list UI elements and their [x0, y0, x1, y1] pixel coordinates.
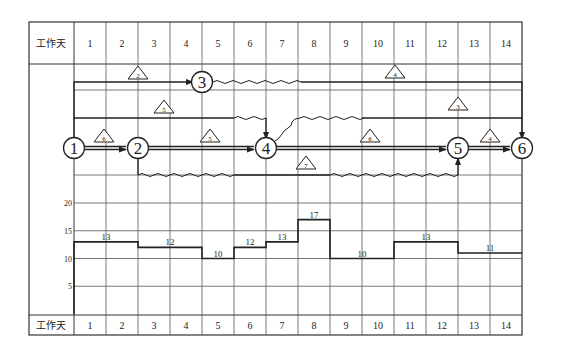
header-day: 5	[216, 38, 221, 49]
histogram-value-label: 10	[358, 249, 368, 259]
svg-text:6: 6	[518, 139, 527, 158]
resource-triangle: 4	[385, 65, 405, 79]
header-day: 3	[152, 38, 157, 49]
y-tick-label: 20	[64, 199, 72, 208]
histogram-value-label: 10	[214, 249, 224, 259]
header-day: 4	[184, 38, 189, 49]
node-2: 2	[128, 138, 149, 159]
node-5: 5	[448, 138, 469, 159]
resource-triangle: 5	[200, 129, 220, 143]
svg-text:5: 5	[208, 135, 212, 143]
resource-triangle: 3	[448, 97, 468, 111]
header-day: 7	[280, 38, 285, 49]
histogram-value-label: 13	[278, 232, 288, 242]
header-day: 14	[501, 38, 511, 49]
header-day: 10	[373, 38, 383, 49]
footer-day: 7	[280, 320, 285, 331]
y-tick-label: 15	[64, 227, 72, 236]
y-tick-label: 10	[64, 255, 72, 264]
histogram-value-label: 13	[102, 232, 112, 242]
footer-day: 12	[437, 320, 447, 331]
footer-day: 8	[312, 320, 317, 331]
resource-triangle: 5	[154, 100, 174, 114]
svg-text:4: 4	[393, 71, 397, 79]
activity-1-4-float	[234, 117, 266, 120]
footer-day: 4	[184, 320, 189, 331]
time-scaled-network-diagram: 1234567891011121314 工作天 1234567891011121…	[0, 0, 562, 355]
histogram-value-label: 12	[246, 237, 255, 247]
resource-triangle: 4	[480, 129, 500, 143]
footer-day: 14	[501, 320, 511, 331]
svg-text:2: 2	[136, 72, 140, 80]
node-1: 1	[64, 138, 85, 159]
svg-text:4: 4	[488, 135, 492, 143]
header-day: 9	[344, 38, 349, 49]
svg-text:6: 6	[102, 135, 106, 143]
svg-text:3: 3	[456, 103, 460, 111]
node-4: 4	[256, 138, 277, 159]
svg-text:6: 6	[368, 135, 372, 143]
activity-3-6-float	[213, 81, 301, 84]
svg-text:7: 7	[304, 162, 308, 170]
footer-day: 1	[88, 320, 93, 331]
histogram-value-label: 11	[486, 243, 495, 253]
footer-day: 2	[120, 320, 125, 331]
footer-day: 9	[344, 320, 349, 331]
svg-text:1: 1	[70, 139, 79, 158]
histogram-value-label: 13	[422, 232, 432, 242]
footer-day: 10	[373, 320, 383, 331]
header-day: 13	[469, 38, 479, 49]
resource-triangle: 7	[296, 156, 316, 170]
svg-text:5: 5	[162, 106, 166, 114]
footer-day: 11	[405, 320, 415, 331]
footer-day: 5	[216, 320, 221, 331]
header-day: 1	[88, 38, 93, 49]
footer-day: 3	[152, 320, 157, 331]
header-day: 11	[405, 38, 415, 49]
header-day: 6	[248, 38, 253, 49]
header-day: 2	[120, 38, 125, 49]
histogram-value-label: 12	[166, 237, 175, 247]
activity-4-6-float	[274, 117, 364, 143]
footer-day: 13	[469, 320, 479, 331]
resource-triangle: 2	[128, 66, 148, 80]
y-tick-label: 5	[68, 282, 72, 291]
header-day: 8	[312, 38, 317, 49]
grid	[29, 22, 522, 335]
footer-row: 1234567891011121314	[88, 320, 512, 331]
svg-text:3: 3	[198, 73, 207, 92]
svg-text:2: 2	[134, 139, 143, 158]
svg-text:5: 5	[454, 139, 463, 158]
node-6: 6	[512, 138, 533, 159]
histogram-y-axis: 5101520	[64, 199, 72, 291]
footer-day: 6	[248, 320, 253, 331]
footer-row-label: 工作天	[36, 320, 66, 331]
header-row: 1234567891011121314	[88, 38, 512, 49]
header-day: 12	[437, 38, 447, 49]
resource-triangle: 6	[94, 129, 114, 143]
day-grid-lines	[106, 22, 490, 335]
histogram-value-label: 17	[310, 210, 320, 220]
header-row-label: 工作天	[36, 38, 66, 49]
svg-text:4: 4	[262, 139, 271, 158]
node-3: 3	[192, 72, 213, 93]
activity-1-3	[74, 82, 193, 140]
resource-triangle: 6	[360, 129, 380, 143]
